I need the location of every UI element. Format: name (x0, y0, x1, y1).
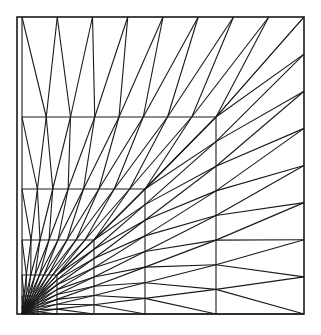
mesh-edge-diagonal (216, 265, 304, 277)
mesh-edge-radial (145, 166, 216, 220)
mesh-edge-diagonal (57, 240, 85, 275)
mesh-edge-diagonal (216, 203, 304, 216)
mesh-edge-diagonal (145, 283, 216, 290)
mesh-edge-radial (145, 265, 216, 283)
mesh-edge-diagonal (67, 189, 84, 240)
mesh-edge-diagonal (22, 189, 31, 240)
mesh-edge-diagonal (94, 252, 145, 268)
mesh-edge-diagonal (22, 117, 37, 189)
mesh-edge-radial (37, 117, 46, 189)
mesh-edge-radial (57, 296, 94, 305)
mesh-edge-diagonal (22, 240, 26, 275)
mesh-edge-diagonal (68, 117, 70, 189)
mesh-edge-radial (99, 117, 143, 189)
mesh-edge-radial (119, 17, 163, 117)
mesh-edge-radial (95, 17, 128, 117)
mesh-edge-radial (94, 189, 145, 240)
mesh-edge-radial (192, 17, 269, 117)
mesh-edge-diagonal (93, 17, 95, 117)
mesh-edge-radial (143, 17, 198, 117)
mesh-edge-diagonal (145, 142, 216, 189)
mesh-edge-diagonal (145, 216, 216, 236)
mesh-edge-radial (145, 191, 216, 236)
mesh-edge-radial (68, 117, 95, 189)
mesh-edge-diagonal (57, 304, 94, 305)
mesh-edge-radial (57, 305, 94, 309)
mesh-edge-radial (114, 117, 167, 189)
mesh-edge-radial (67, 189, 99, 240)
mesh-edge-diagonal (22, 17, 46, 117)
mesh-edge-radial (71, 17, 93, 117)
mesh-edge-radial (145, 289, 216, 298)
mesh-edge-radial (145, 117, 216, 189)
mesh-edge-radial (94, 298, 145, 304)
mesh-edge-diagonal (216, 54, 304, 117)
mesh-edge-diagonal (192, 17, 234, 117)
mesh-edge-group (22, 17, 304, 314)
mesh-edge-diagonal (99, 117, 119, 189)
mesh-edge-diagonal (57, 17, 70, 117)
mesh-edge-radial (53, 117, 71, 189)
mesh-edge-diagonal (216, 166, 304, 191)
mesh-edge-radial (46, 17, 57, 117)
mesh-edge-radial (145, 240, 216, 267)
mesh-edge-radial (94, 236, 145, 268)
mesh-edge-diagonal (145, 265, 216, 267)
mesh-edge-diagonal (216, 289, 304, 314)
mesh-edge-radial (216, 128, 304, 191)
mesh-edge-diagonal (168, 17, 199, 117)
triangular-mesh-diagram (0, 0, 321, 335)
mesh-edge-radial (216, 240, 304, 265)
mesh-edge-diagonal (94, 296, 145, 299)
mesh-edge-diagonal (46, 117, 53, 189)
mesh-edge-diagonal (94, 305, 145, 314)
mesh-edge-diagonal (145, 298, 216, 314)
mesh-edge-diagonal (58, 189, 68, 240)
mesh-edge-diagonal (94, 267, 145, 277)
mesh-edge-radial (216, 277, 304, 290)
mesh-figure (0, 0, 321, 335)
mesh-edge-radial (31, 189, 37, 240)
mesh-edge-diagonal (143, 17, 163, 117)
mesh-edge-diagonal (145, 117, 192, 189)
mesh-edge-diagonal (37, 189, 40, 240)
